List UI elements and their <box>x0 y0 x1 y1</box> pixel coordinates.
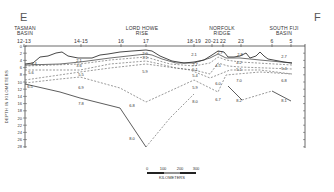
svg-text:10: 10 <box>18 80 23 85</box>
svg-text:5.4: 5.4 <box>192 73 198 78</box>
svg-text:8.0: 8.0 <box>129 136 135 141</box>
svg-text:3.1: 3.1 <box>142 55 148 60</box>
svg-text:5.1: 5.1 <box>236 67 242 72</box>
svg-text:28: 28 <box>18 144 23 149</box>
svg-text:2.7: 2.7 <box>217 50 223 55</box>
svg-text:2.1: 2.1 <box>191 52 197 57</box>
svg-text:2: 2 <box>20 51 23 56</box>
scale-bar-unit: KILOMETERS <box>159 175 185 180</box>
svg-text:100: 100 <box>160 166 167 171</box>
svg-text:6.8: 6.8 <box>129 103 135 108</box>
layer-boundary-upper <box>25 57 292 66</box>
svg-text:0: 0 <box>20 44 23 49</box>
svg-text:0: 0 <box>146 166 149 171</box>
depth-tick-labels: 0 2 4 6 8 10 12 14 16 18 20 22 24 26 28 <box>18 44 23 150</box>
svg-text:2.7: 2.7 <box>281 54 287 59</box>
sediment-base-line <box>25 54 292 65</box>
svg-text:3.6: 3.6 <box>76 63 82 68</box>
svg-text:2.8: 2.8 <box>237 52 243 57</box>
svg-text:3.4: 3.4 <box>31 61 37 66</box>
svg-text:26: 26 <box>18 137 23 142</box>
layer-boundary-mid <box>25 64 292 80</box>
svg-text:4.2: 4.2 <box>236 60 242 65</box>
svg-text:5.4: 5.4 <box>281 66 287 71</box>
station-ticks <box>24 44 291 47</box>
svg-text:20: 20 <box>18 116 23 121</box>
seafloor-line <box>25 50 292 64</box>
svg-text:6: 6 <box>20 65 23 70</box>
svg-text:24: 24 <box>18 130 23 135</box>
svg-text:6.7: 6.7 <box>215 97 221 102</box>
moho-dashed <box>146 94 194 147</box>
lower-crust-boundary <box>25 72 292 102</box>
svg-text:4.5: 4.5 <box>215 63 221 68</box>
svg-text:22: 22 <box>18 123 23 128</box>
moho-fiji-dashed <box>242 91 272 100</box>
svg-text:5.5: 5.5 <box>78 72 84 77</box>
svg-text:16: 16 <box>18 101 23 106</box>
svg-text:8.0: 8.0 <box>192 99 198 104</box>
svg-text:5.9: 5.9 <box>142 69 148 74</box>
svg-text:6.9: 6.9 <box>78 85 84 90</box>
crustal-cross-section-figure: E F TASMAN BASIN LORD HOWE RISE NORFOLK … <box>0 0 334 192</box>
svg-text:8: 8 <box>20 72 23 77</box>
svg-text:14: 14 <box>18 94 23 99</box>
svg-text:300: 300 <box>193 166 200 171</box>
svg-text:6.5: 6.5 <box>27 84 33 89</box>
svg-text:7.0: 7.0 <box>236 78 242 83</box>
section-plot: 0 2 4 6 8 10 12 14 16 18 20 22 24 26 28 <box>0 0 334 192</box>
svg-text:8.1: 8.1 <box>281 98 287 103</box>
svg-text:18: 18 <box>18 108 23 113</box>
moho-line <box>25 84 146 147</box>
svg-text:7.8: 7.8 <box>78 101 84 106</box>
svg-text:6.8: 6.8 <box>281 78 287 83</box>
svg-text:5.1: 5.1 <box>192 67 198 72</box>
svg-text:5.9: 5.9 <box>192 85 198 90</box>
svg-text:8.2: 8.2 <box>236 98 242 103</box>
svg-text:4: 4 <box>20 58 23 63</box>
svg-text:6.0: 6.0 <box>215 81 221 86</box>
svg-text:200: 200 <box>177 166 184 171</box>
svg-text:12: 12 <box>18 87 23 92</box>
scale-bar <box>147 172 196 174</box>
svg-text:5.6: 5.6 <box>28 70 34 75</box>
